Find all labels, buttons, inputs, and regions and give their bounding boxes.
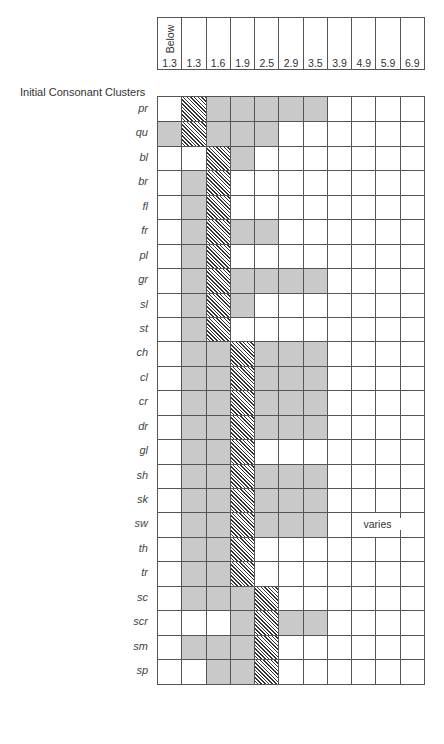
hatched-cell bbox=[230, 367, 254, 390]
column-value: 2.9 bbox=[279, 57, 302, 69]
table-row bbox=[158, 366, 424, 390]
table-row bbox=[158, 415, 424, 439]
row-label: qu bbox=[0, 120, 148, 144]
column-header-cell: 1.9 bbox=[230, 18, 254, 69]
blank-cell bbox=[303, 562, 327, 585]
shaded-cell bbox=[230, 587, 254, 610]
blank-cell bbox=[400, 342, 424, 365]
blank-cell bbox=[400, 245, 424, 268]
hatched-cell bbox=[254, 611, 278, 634]
shaded-cell bbox=[230, 220, 254, 243]
shaded-cell bbox=[206, 587, 230, 610]
blank-cell bbox=[351, 489, 375, 512]
table-row bbox=[158, 390, 424, 414]
row-label: br bbox=[0, 169, 148, 193]
blank-cell bbox=[303, 171, 327, 194]
table-row bbox=[158, 561, 424, 585]
blank-cell bbox=[303, 318, 327, 341]
blank-cell bbox=[400, 513, 424, 536]
blank-cell bbox=[158, 636, 181, 659]
blank-cell bbox=[181, 660, 205, 683]
shaded-cell bbox=[303, 391, 327, 414]
blank-cell bbox=[375, 97, 399, 121]
hatched-cell bbox=[254, 660, 278, 683]
blank-cell bbox=[327, 245, 351, 268]
shaded-cell bbox=[230, 660, 254, 683]
blank-cell bbox=[351, 97, 375, 121]
blank-cell bbox=[278, 660, 302, 683]
row-label: fr bbox=[0, 218, 148, 242]
blank-cell bbox=[254, 171, 278, 194]
blank-cell bbox=[327, 611, 351, 634]
blank-cell bbox=[254, 196, 278, 219]
blank-cell bbox=[375, 587, 399, 610]
blank-cell bbox=[375, 147, 399, 170]
shaded-cell bbox=[254, 97, 278, 121]
blank-cell bbox=[351, 220, 375, 243]
column-value: 4.9 bbox=[352, 57, 375, 69]
hatched-cell bbox=[230, 342, 254, 365]
shaded-cell bbox=[181, 636, 205, 659]
shaded-cell bbox=[303, 367, 327, 390]
shaded-cell bbox=[181, 367, 205, 390]
hatched-cell bbox=[254, 636, 278, 659]
blank-cell bbox=[181, 147, 205, 170]
blank-cell bbox=[351, 538, 375, 561]
blank-cell bbox=[375, 465, 399, 488]
shaded-cell bbox=[278, 611, 302, 634]
blank-cell bbox=[303, 587, 327, 610]
blank-cell bbox=[158, 440, 181, 463]
blank-cell bbox=[375, 196, 399, 219]
varies-annotation: varies bbox=[353, 518, 402, 530]
column-header-cell: 1.6 bbox=[206, 18, 230, 69]
blank-cell bbox=[351, 465, 375, 488]
table-row bbox=[158, 464, 424, 488]
row-label: sw bbox=[0, 511, 148, 535]
shaded-cell bbox=[181, 196, 205, 219]
column-value: 3.9 bbox=[328, 57, 351, 69]
blank-cell bbox=[400, 171, 424, 194]
blank-cell bbox=[327, 220, 351, 243]
blank-cell bbox=[278, 538, 302, 561]
hatched-cell bbox=[181, 97, 205, 121]
blank-cell bbox=[400, 465, 424, 488]
table-row bbox=[158, 341, 424, 365]
blank-cell bbox=[327, 440, 351, 463]
column-value: 1.3 bbox=[158, 57, 181, 69]
row-label: sc bbox=[0, 585, 148, 609]
blank-cell bbox=[158, 97, 181, 121]
blank-cell bbox=[327, 294, 351, 317]
blank-cell bbox=[158, 245, 181, 268]
column-header: Below1.31.31.61.92.52.93.53.94.95.96.9 bbox=[157, 17, 425, 70]
shaded-cell bbox=[278, 489, 302, 512]
blank-cell bbox=[327, 318, 351, 341]
blank-cell bbox=[351, 562, 375, 585]
blank-cell bbox=[158, 611, 181, 634]
shaded-cell bbox=[254, 513, 278, 536]
row-labels: prqublbrflfrplgrslstchclcrdrglshskswthtr… bbox=[0, 96, 148, 683]
blank-cell bbox=[400, 440, 424, 463]
blank-cell bbox=[351, 587, 375, 610]
blank-cell bbox=[230, 171, 254, 194]
shaded-cell bbox=[206, 562, 230, 585]
blank-cell bbox=[158, 294, 181, 317]
shaded-cell bbox=[181, 220, 205, 243]
column-header-cell: 6.9 bbox=[400, 18, 424, 69]
hatched-cell bbox=[230, 465, 254, 488]
blank-cell bbox=[400, 611, 424, 634]
blank-cell bbox=[327, 367, 351, 390]
table-row bbox=[158, 219, 424, 243]
blank-cell bbox=[158, 147, 181, 170]
blank-cell bbox=[278, 196, 302, 219]
blank-cell bbox=[278, 122, 302, 145]
blank-cell bbox=[303, 636, 327, 659]
shaded-cell bbox=[254, 122, 278, 145]
row-label: st bbox=[0, 316, 148, 340]
shaded-cell bbox=[181, 489, 205, 512]
blank-cell bbox=[158, 342, 181, 365]
blank-cell bbox=[303, 220, 327, 243]
blank-cell bbox=[400, 391, 424, 414]
column-value: 3.5 bbox=[304, 57, 327, 69]
shaded-cell bbox=[303, 489, 327, 512]
shaded-cell bbox=[303, 416, 327, 439]
